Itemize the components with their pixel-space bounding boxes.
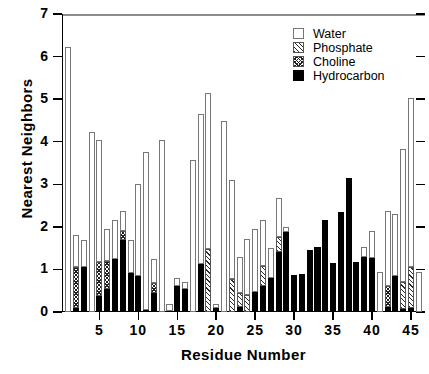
y-axis-tick <box>53 226 62 228</box>
bar-residue-17 <box>190 160 196 312</box>
bar-residue-16 <box>182 282 188 312</box>
legend-swatch-phosphate-icon <box>293 42 304 53</box>
bar-residue-34 <box>322 220 328 312</box>
bar-segment-water <box>81 240 87 268</box>
bar-segment-water <box>135 184 141 276</box>
bar-segment-water <box>166 304 172 312</box>
bar-segment-hydrocarbon <box>307 250 313 312</box>
y-axis-tick-label: 1 <box>26 260 48 276</box>
bar-segment-hydrocarbon <box>400 309 406 312</box>
bar-residue-21 <box>221 121 227 312</box>
bar-residue-15 <box>174 278 180 312</box>
bar-segment-water <box>408 98 414 267</box>
bar-segment-water <box>244 239 250 295</box>
x-axis-tick <box>99 312 101 320</box>
y-axis-tick-label: 5 <box>26 90 48 106</box>
bar-residue-25 <box>252 229 258 312</box>
bar-segment-phosphate <box>237 293 243 307</box>
bar-segment-hydrocarbon <box>369 258 375 312</box>
bar-segment-water <box>96 140 102 262</box>
legend-item-phosphate: Phosphate <box>293 41 385 55</box>
chart-figure: Nearest Neighbors Residue Number 0123456… <box>0 0 429 374</box>
x-axis-tick-label: 20 <box>196 322 236 338</box>
bar-residue-33 <box>314 247 320 312</box>
x-axis-tick-label: 30 <box>274 322 314 338</box>
bar-segment-water <box>205 93 211 249</box>
bar-segment-hydrocarbon <box>182 289 188 312</box>
y-axis-tick <box>53 311 62 313</box>
bar-segment-hydrocarbon <box>353 262 359 312</box>
bar-segment-water <box>89 132 95 312</box>
bar-segment-water <box>377 272 383 312</box>
bar-residue-38 <box>353 262 359 312</box>
bar-residue-11 <box>143 152 149 312</box>
y-axis-tick-right <box>416 56 425 58</box>
bar-segment-hydrocarbon <box>213 308 219 312</box>
bar-segment-water <box>416 272 422 312</box>
bar-residue-18 <box>198 114 204 312</box>
y-axis-tick-label: 2 <box>26 218 48 234</box>
bar-residue-12 <box>151 259 157 312</box>
legend-swatch-water-icon <box>293 28 304 39</box>
bar-segment-water <box>221 121 227 312</box>
bar-segment-water <box>385 211 391 287</box>
x-axis-tick-label: 25 <box>235 322 275 338</box>
bar-segment-choline <box>73 267 79 307</box>
y-axis-tick-right <box>416 141 425 143</box>
bar-segment-hydrocarbon <box>392 276 398 312</box>
y-axis-tick-label: 4 <box>26 133 48 149</box>
bar-segment-phosphate <box>260 266 266 285</box>
legend-item-choline: Choline <box>293 55 385 69</box>
bar-segment-water <box>159 140 165 312</box>
bar-segment-hydrocarbon <box>128 273 134 312</box>
bar-segment-water <box>198 114 204 264</box>
y-axis-tick-label: 0 <box>26 303 48 319</box>
bar-segment-hydrocarbon <box>322 220 328 312</box>
bar-residue-36 <box>338 212 344 312</box>
bar-residue-22 <box>229 180 235 312</box>
y-axis-tick-label: 7 <box>26 5 48 21</box>
bar-segment-water <box>252 229 258 292</box>
bar-segment-phosphate <box>408 267 414 307</box>
bar-segment-hydrocarbon <box>143 310 149 312</box>
y-axis-tick <box>53 56 62 58</box>
x-axis-tick <box>332 312 334 320</box>
bar-segment-phosphate <box>205 249 211 312</box>
bar-residue-35 <box>330 263 336 312</box>
bar-segment-hydrocarbon <box>112 259 118 312</box>
bar-residue-14 <box>166 304 172 313</box>
legend-label: Hydrocarbon <box>313 69 385 83</box>
y-axis-tick <box>53 269 62 271</box>
y-axis-tick-label: 3 <box>26 175 48 191</box>
bar-segment-hydrocarbon <box>361 257 367 312</box>
bar-residue-37 <box>346 178 352 312</box>
bar-segment-phosphate <box>244 295 250 312</box>
bar-residue-27 <box>268 248 274 312</box>
bar-segment-hydrocarbon <box>198 264 204 312</box>
bar-residue-31 <box>299 274 305 312</box>
bar-segment-choline <box>104 261 110 289</box>
bar-segment-phosphate <box>400 282 406 308</box>
x-axis-tick-label: 45 <box>391 322 429 338</box>
bar-segment-water <box>128 240 134 273</box>
x-axis-tick <box>138 312 140 320</box>
x-axis-tick <box>215 312 217 320</box>
x-axis-tick-label: 10 <box>118 322 158 338</box>
x-axis-tick <box>371 312 373 320</box>
bar-segment-water <box>268 248 274 278</box>
bar-segment-hydrocarbon <box>174 286 180 312</box>
bar-residue-41 <box>377 272 383 312</box>
bar-residue-7 <box>112 220 118 312</box>
bar-segment-water <box>174 278 180 286</box>
legend-swatch-hydrocarbon-icon <box>293 70 304 81</box>
bar-residue-44 <box>400 149 406 312</box>
bar-segment-water <box>400 149 406 282</box>
bar-segment-hydrocarbon <box>268 278 274 312</box>
chart-legend: WaterPhosphateCholineHydrocarbon <box>293 27 385 83</box>
bar-segment-hydrocarbon <box>252 292 258 312</box>
bar-residue-6 <box>104 229 110 312</box>
y-axis-tick <box>53 184 62 186</box>
bar-segment-water <box>112 220 118 259</box>
x-axis-tick <box>177 312 179 320</box>
bar-segment-water <box>276 198 282 236</box>
